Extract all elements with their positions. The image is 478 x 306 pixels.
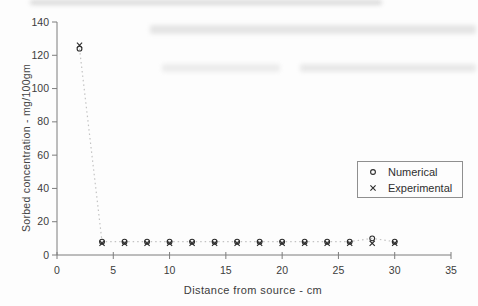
x-marker-icon bbox=[358, 182, 388, 194]
y-tick-label: 20 bbox=[37, 215, 49, 227]
x-axis-title: Distance from source - cm bbox=[184, 284, 322, 296]
x-tick-label: 20 bbox=[276, 264, 288, 276]
series-numerical bbox=[77, 46, 397, 244]
legend-item-experimental: Experimental bbox=[358, 180, 462, 196]
x-tick-label: 35 bbox=[445, 264, 457, 276]
y-tick-label: 60 bbox=[37, 149, 49, 161]
x-tick-label: 5 bbox=[110, 264, 116, 276]
y-tick-label: 80 bbox=[37, 115, 49, 127]
dotted-series-line bbox=[80, 49, 395, 242]
y-tick-label: 40 bbox=[37, 182, 49, 194]
legend-label: Experimental bbox=[388, 182, 452, 194]
data-point-x bbox=[370, 241, 375, 246]
legend-item-numerical: Numerical bbox=[358, 164, 462, 180]
legend: Numerical Experimental bbox=[357, 161, 463, 198]
y-tick-label: 140 bbox=[31, 16, 49, 28]
x-tick-label: 0 bbox=[54, 264, 60, 276]
data-point-x bbox=[77, 43, 82, 48]
x-tick-label: 15 bbox=[220, 264, 232, 276]
x-tick-label: 30 bbox=[389, 264, 401, 276]
y-tick-label: 0 bbox=[43, 249, 49, 261]
y-axis-title: Sorbed concentration - mg/100gm bbox=[20, 64, 32, 232]
y-tick-label: 100 bbox=[31, 82, 49, 94]
series-experimental bbox=[77, 43, 397, 246]
y-tick-label: 120 bbox=[31, 49, 49, 61]
circle-marker-icon bbox=[358, 166, 388, 178]
x-tick-label: 25 bbox=[333, 264, 345, 276]
plot-area: 02040608010012014005101520253035 bbox=[0, 0, 478, 306]
chart-figure: 02040608010012014005101520253035 Sorbed … bbox=[0, 0, 478, 306]
legend-label: Numerical bbox=[388, 166, 438, 178]
x-tick-label: 10 bbox=[164, 264, 176, 276]
